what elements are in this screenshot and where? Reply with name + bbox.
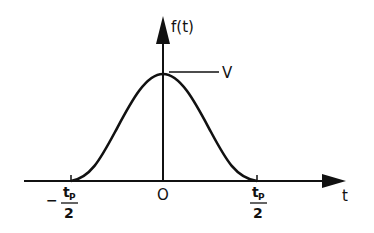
pulse-diagram: f(t) V t O − t P 2 t P 2: [0, 0, 374, 233]
left-tick-label: − t P 2: [46, 184, 78, 221]
peak-label: V: [222, 64, 233, 82]
right-denominator: 2: [253, 205, 263, 221]
left-denominator: 2: [64, 205, 74, 221]
y-axis-label: f(t): [171, 18, 194, 36]
right-numerator-sub: P: [258, 192, 265, 202]
x-axis-label: t: [342, 187, 348, 205]
y-axis-arrow-icon: [156, 16, 170, 44]
origin-label: O: [157, 186, 169, 204]
right-tick-label: t P 2: [250, 184, 267, 221]
x-axis-arrow-icon: [322, 174, 346, 188]
minus-sign: −: [46, 192, 58, 208]
left-numerator-sub: P: [69, 192, 76, 202]
y-axis: [156, 16, 170, 181]
